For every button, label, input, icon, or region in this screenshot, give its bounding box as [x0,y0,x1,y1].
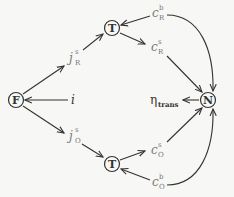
svg-text:s: s [75,48,79,56]
node-F: F [9,93,24,108]
node-T-bottom: T [105,157,120,172]
label-c-O-s: c s O [151,141,164,159]
label-c-R-s: c s R [151,38,164,56]
svg-text:R: R [75,59,81,67]
label-c-O-b: c b O [152,173,165,191]
svg-text:O: O [158,151,164,159]
svg-text:c: c [151,40,158,54]
label-j-R-s: j s R [66,48,81,67]
svg-text:j: j [66,51,73,65]
svg-text:R: R [159,14,165,22]
edge-Tbottom-to-cOs [120,151,145,160]
svg-text:s: s [158,141,162,149]
svg-text:η: η [150,93,157,107]
node-T-top: T [105,21,120,36]
edge-cRs-to-N [167,56,202,92]
label-i: i [71,93,75,107]
svg-text:R: R [158,48,164,56]
svg-text:j: j [66,129,73,143]
edge-F-to-jOs [23,106,64,133]
svg-text:trans: trans [158,100,179,109]
edge-cRb-to-Ttop [121,16,150,25]
svg-text:T: T [108,22,117,35]
label-c-R-b: c b R [152,4,165,22]
edge-jRs-to-Ttop [83,34,103,50]
svg-text:b: b [159,4,164,12]
svg-text:N: N [203,94,213,107]
svg-text:b: b [159,173,164,181]
svg-text:O: O [159,183,165,191]
svg-text:i: i [71,93,75,107]
label-j-O-s: j s O [66,126,81,145]
svg-text:c: c [151,143,158,157]
svg-text:O: O [75,137,81,145]
edge-Ttop-to-cRs [120,33,145,44]
svg-text:T: T [108,158,117,171]
edge-cOb-to-N [167,109,213,185]
edge-cOb-to-Tbottom [121,169,150,180]
node-N: N [201,93,216,108]
edge-F-to-jRs [23,66,64,94]
label-eta-trans: η trans [150,93,179,109]
svg-text:s: s [75,126,79,134]
svg-text:c: c [152,175,159,189]
edge-jOs-to-Tbottom [82,144,103,157]
svg-text:c: c [152,6,159,20]
edge-cOs-to-N [167,108,202,142]
svg-text:s: s [158,38,162,46]
svg-text:F: F [12,94,20,107]
flow-diagram: F T T N i j s R j s O c b R c s R η tran… [0,0,234,197]
